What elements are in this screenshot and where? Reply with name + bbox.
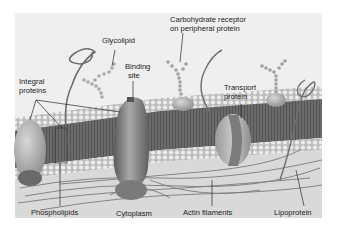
- peripheral-protein-right: [266, 93, 286, 107]
- peripheral-protein: [172, 97, 194, 111]
- label-phospholipids: Phospholipids: [31, 208, 78, 217]
- label-binding-site-line2: site: [128, 71, 140, 80]
- label-carbohydrate-receptor-line1: Carbohydrate receptor: [170, 15, 246, 24]
- label-transport-protein-line2: protein: [224, 92, 247, 101]
- label-binding-site-line1: Binding: [125, 62, 150, 71]
- integral-protein-binding-site: [114, 97, 150, 200]
- label-transport-protein-line1: Transport: [224, 83, 257, 92]
- cell-membrane-diagram: Glycolipid Carbohydrate receptor on peri…: [0, 0, 337, 233]
- label-lipoprotein: Lipoprotein: [274, 208, 312, 217]
- label-glycolipid: Glycolipid: [102, 36, 135, 45]
- label-integral-proteins-line2: proteins: [19, 86, 46, 95]
- label-cytoplasm: Cytoplasm: [116, 209, 152, 218]
- label-actin-filaments: Actin filaments: [183, 208, 233, 217]
- transport-protein: [215, 114, 251, 166]
- label-carbohydrate-receptor-line2: on peripheral protein: [170, 24, 240, 33]
- label-integral-proteins-line1: Integral: [19, 77, 45, 86]
